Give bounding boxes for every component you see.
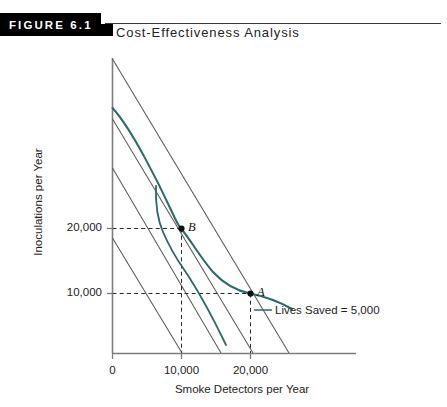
x-tick-label-10000: 10,000 — [151, 364, 212, 376]
curve-annotation-label: Lives Saved = 5,000 — [275, 304, 380, 316]
point-label-b: B — [188, 220, 196, 235]
point-marker-b — [178, 225, 184, 231]
y-tick-label-10000: 10,000 — [38, 286, 102, 298]
guide-lines-group — [113, 229, 251, 354]
y-axis-title: Inoculations per Year — [32, 126, 44, 278]
point-label-a: A — [257, 285, 265, 300]
budget-line-lowest — [113, 238, 183, 353]
point-marker-a — [247, 290, 253, 296]
chart-svg — [0, 0, 447, 407]
budget-line-outer — [113, 59, 290, 353]
curve-branch — [156, 186, 226, 345]
x-tick-label-0: 0 — [92, 364, 133, 376]
x-tick-label-20000: 20,000 — [220, 364, 281, 376]
budget-lines-group — [113, 59, 290, 353]
figure-root: FIGURE 6.1 Cost-Effectiveness Analysis — [0, 0, 447, 407]
y-tick-label-20000: 20,000 — [38, 221, 102, 233]
chart-plot-area: Inoculations per Year Smoke Detectors pe… — [0, 0, 447, 407]
x-axis-title: Smoke Detectors per Year — [122, 383, 362, 395]
budget-line-middle — [113, 119, 254, 353]
